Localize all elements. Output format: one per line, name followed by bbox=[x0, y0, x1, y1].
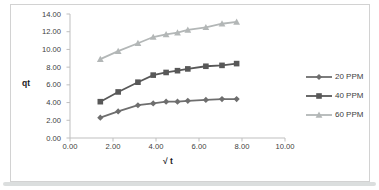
data-point bbox=[185, 98, 191, 104]
x-tick-label: 10.00 bbox=[275, 142, 294, 151]
data-point bbox=[163, 99, 169, 105]
chart-figure: 0.002.004.006.008.0010.0012.0014.000.002… bbox=[0, 0, 379, 190]
legend-item-60-ppm: 60 PPM bbox=[306, 105, 363, 124]
x-axis-title: √ t bbox=[138, 156, 198, 166]
data-point bbox=[163, 70, 169, 76]
data-point bbox=[219, 63, 225, 69]
y-tick-label: 14.00 bbox=[42, 10, 61, 19]
y-tick-label: 0.00 bbox=[46, 134, 61, 143]
data-point bbox=[115, 89, 121, 95]
y-tick-label: 8.00 bbox=[46, 63, 61, 72]
series-line bbox=[100, 64, 236, 102]
data-point bbox=[97, 115, 103, 121]
y-axis-title: qt bbox=[16, 78, 36, 88]
data-point bbox=[316, 73, 322, 79]
data-point bbox=[150, 100, 156, 106]
data-point bbox=[175, 68, 181, 74]
data-point bbox=[150, 72, 156, 78]
legend-label: 20 PPM bbox=[335, 72, 363, 81]
legend-item-20-ppm: 20 PPM bbox=[306, 67, 363, 86]
legend-marker-60ppm-icon bbox=[306, 110, 332, 120]
x-tick-label: 6.00 bbox=[192, 142, 207, 151]
x-tick-label: 2.00 bbox=[106, 142, 121, 151]
data-point bbox=[115, 108, 121, 114]
series-60-ppm bbox=[97, 19, 240, 62]
legend-marker-40ppm-icon bbox=[306, 91, 332, 101]
legend-item-40-ppm: 40 PPM bbox=[306, 86, 363, 105]
data-point bbox=[174, 99, 180, 105]
y-tick-label: 12.00 bbox=[42, 27, 61, 36]
data-point bbox=[98, 99, 104, 105]
x-tick-label: 8.00 bbox=[235, 142, 250, 151]
y-tick-label: 6.00 bbox=[46, 80, 61, 89]
legend-marker-20ppm-icon bbox=[306, 72, 332, 82]
data-point bbox=[316, 93, 322, 99]
legend-label: 40 PPM bbox=[335, 91, 363, 100]
data-point bbox=[234, 96, 240, 102]
y-tick-label: 4.00 bbox=[46, 98, 61, 107]
data-point bbox=[135, 102, 141, 108]
data-point bbox=[203, 63, 209, 69]
data-point bbox=[135, 79, 141, 85]
data-point bbox=[219, 96, 225, 102]
series-40-ppm bbox=[98, 61, 240, 105]
y-tick-label: 2.00 bbox=[46, 116, 61, 125]
data-point bbox=[185, 66, 191, 72]
x-tick-label: 4.00 bbox=[149, 142, 164, 151]
data-point bbox=[234, 61, 240, 67]
series-20-ppm bbox=[97, 96, 240, 121]
y-tick-label: 10.00 bbox=[42, 45, 61, 54]
data-point bbox=[203, 97, 209, 103]
legend-label: 60 PPM bbox=[335, 110, 363, 119]
legend: 20 PPM 40 PPM 60 PPM bbox=[306, 67, 363, 124]
x-tick-label: 0.00 bbox=[63, 142, 78, 151]
